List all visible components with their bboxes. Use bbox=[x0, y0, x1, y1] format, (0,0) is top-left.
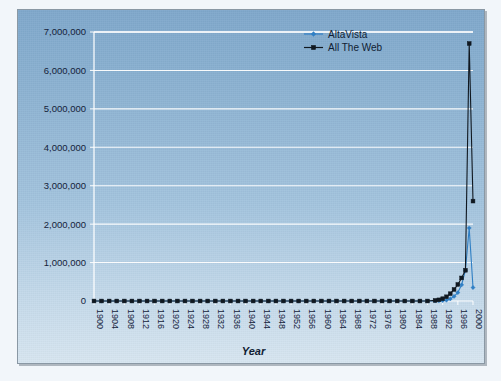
data-point-marker bbox=[145, 299, 149, 303]
data-point-marker bbox=[312, 299, 316, 303]
series-line bbox=[94, 228, 473, 301]
data-point-marker bbox=[130, 299, 134, 303]
x-axis-tick-label: 1960 bbox=[323, 309, 333, 329]
data-point-marker bbox=[100, 299, 104, 303]
x-axis-tick-label: 1964 bbox=[338, 309, 348, 329]
x-axis-tick-label: 1976 bbox=[383, 309, 393, 329]
x-axis-title-label: Year bbox=[242, 345, 266, 357]
data-point-marker bbox=[213, 299, 217, 303]
data-point-marker bbox=[445, 295, 449, 299]
data-point-marker bbox=[388, 299, 392, 303]
data-point-marker bbox=[335, 299, 339, 303]
series-all-the-web bbox=[92, 42, 475, 303]
data-point-marker bbox=[471, 285, 475, 289]
data-point-marker bbox=[115, 299, 119, 303]
data-point-marker bbox=[168, 299, 172, 303]
x-axis-tick-label: 1984 bbox=[414, 309, 424, 329]
x-axis-tick-label: 1972 bbox=[368, 309, 378, 329]
chart-figure: 7,000,0006,000,0005,000,0004,000,0003,00… bbox=[0, 0, 501, 381]
axis-ticks bbox=[90, 32, 473, 305]
data-point-marker bbox=[289, 299, 293, 303]
legend-label: AltaVista bbox=[328, 29, 368, 40]
data-point-marker bbox=[282, 299, 286, 303]
data-point-marker bbox=[304, 299, 308, 303]
y-axis-tick-label: 6,000,000 bbox=[44, 65, 86, 76]
data-point-marker bbox=[107, 299, 111, 303]
data-point-marker bbox=[244, 299, 248, 303]
data-point-marker bbox=[206, 299, 210, 303]
data-point-marker bbox=[467, 226, 471, 230]
x-axis-tick-label: 1916 bbox=[156, 309, 166, 329]
data-point-marker bbox=[437, 298, 441, 302]
legend-item: AltaVista bbox=[304, 29, 368, 40]
line-chart: 7,000,0006,000,0005,000,0004,000,0003,00… bbox=[18, 10, 486, 365]
data-point-marker bbox=[403, 299, 407, 303]
chart-panel: 7,000,0006,000,0005,000,0004,000,0003,00… bbox=[17, 9, 485, 364]
y-axis-labels: 7,000,0006,000,0005,000,0004,000,0003,00… bbox=[44, 26, 86, 306]
data-point-marker bbox=[251, 299, 255, 303]
data-point-marker bbox=[122, 299, 126, 303]
data-point-marker bbox=[464, 268, 468, 272]
legend-item: All The Web bbox=[304, 42, 383, 53]
data-point-marker bbox=[160, 299, 164, 303]
data-point-marker bbox=[460, 276, 464, 280]
data-point-marker bbox=[138, 299, 142, 303]
legend-label: All The Web bbox=[328, 42, 383, 53]
data-point-marker bbox=[395, 299, 399, 303]
series-altavista bbox=[92, 226, 475, 303]
x-axis-tick-label: 1928 bbox=[201, 309, 211, 329]
x-axis-tick-label: 1908 bbox=[126, 309, 136, 329]
y-axis-tick-label: 0 bbox=[81, 295, 86, 306]
data-point-marker bbox=[297, 299, 301, 303]
data-point-marker bbox=[236, 299, 240, 303]
data-point-marker bbox=[198, 299, 202, 303]
x-axis-tick-label: 1940 bbox=[247, 309, 257, 329]
x-axis-tick-label: 1992 bbox=[444, 309, 454, 329]
y-axis-tick-label: 2,000,000 bbox=[44, 219, 86, 230]
data-point-marker bbox=[191, 299, 195, 303]
data-point-marker bbox=[448, 292, 452, 296]
data-series bbox=[92, 42, 475, 303]
data-point-marker bbox=[183, 299, 187, 303]
y-axis-tick-label: 1,000,000 bbox=[44, 257, 86, 268]
x-axis-tick-label: 1956 bbox=[307, 309, 317, 329]
gridlines bbox=[94, 32, 473, 301]
data-point-marker bbox=[380, 299, 384, 303]
data-point-marker bbox=[456, 283, 460, 287]
data-point-marker bbox=[350, 299, 354, 303]
data-point-marker bbox=[320, 299, 324, 303]
x-axis-tick-label: 1988 bbox=[429, 309, 439, 329]
data-point-marker bbox=[153, 299, 157, 303]
x-axis-tick-label: 1904 bbox=[110, 309, 120, 329]
data-point-marker bbox=[426, 299, 430, 303]
x-axis-tick-label: 1980 bbox=[398, 309, 408, 329]
x-axis-title: Year bbox=[242, 345, 266, 357]
x-axis-tick-label: 1948 bbox=[277, 309, 287, 329]
plot-area-border bbox=[94, 32, 473, 301]
data-point-marker bbox=[365, 299, 369, 303]
data-point-marker bbox=[229, 299, 233, 303]
data-point-marker bbox=[221, 299, 225, 303]
x-axis-tick-label: 1924 bbox=[186, 309, 196, 329]
data-point-marker bbox=[357, 299, 361, 303]
x-axis-tick-label: 1944 bbox=[262, 309, 272, 329]
x-axis-tick-label: 1952 bbox=[292, 309, 302, 329]
data-point-marker bbox=[452, 288, 456, 292]
y-axis-tick-label: 4,000,000 bbox=[44, 142, 86, 153]
data-point-marker bbox=[342, 299, 346, 303]
data-point-marker bbox=[311, 45, 315, 49]
x-axis-tick-label: 1920 bbox=[171, 309, 181, 329]
data-point-marker bbox=[433, 299, 437, 303]
x-axis-tick-label: 2000 bbox=[474, 309, 484, 329]
x-axis-tick-label: 1996 bbox=[459, 309, 469, 329]
data-point-marker bbox=[418, 299, 422, 303]
x-axis-tick-label: 1968 bbox=[353, 309, 363, 329]
data-point-marker bbox=[259, 299, 263, 303]
data-point-marker bbox=[373, 299, 377, 303]
data-point-marker bbox=[410, 299, 414, 303]
x-axis-tick-label: 1900 bbox=[95, 309, 105, 329]
x-axis-tick-label: 1912 bbox=[141, 309, 151, 329]
x-axis-tick-label: 1936 bbox=[232, 309, 242, 329]
data-point-marker bbox=[471, 199, 475, 203]
data-point-marker bbox=[92, 299, 96, 303]
